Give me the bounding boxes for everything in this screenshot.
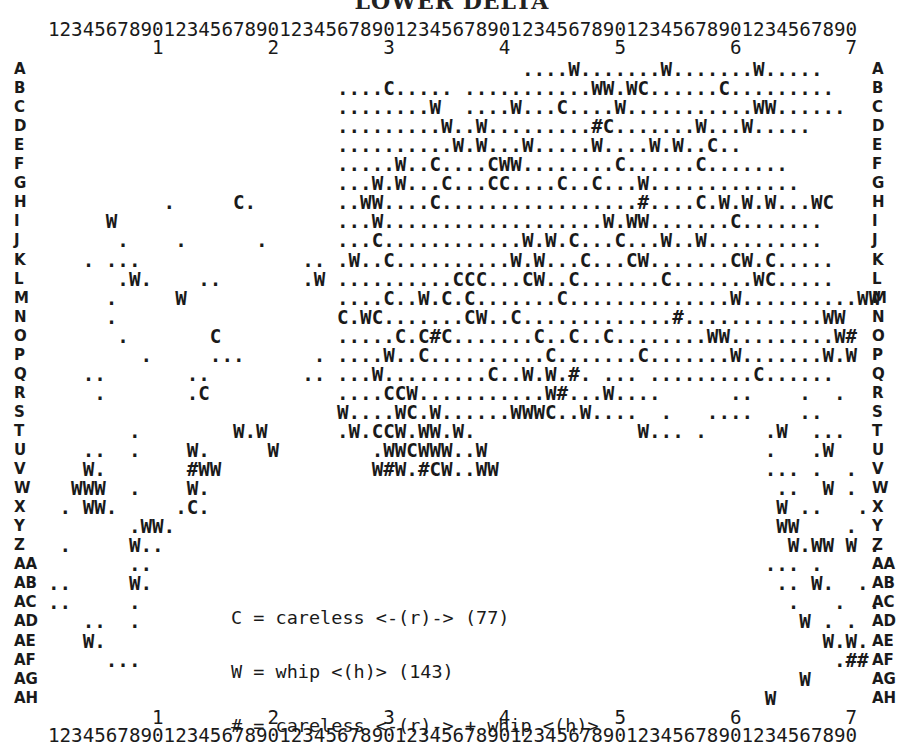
row-label-right: R: [872, 384, 884, 403]
row-label-right: AF: [872, 651, 894, 670]
row-label-left: U: [14, 441, 26, 460]
row-label-left: AC: [14, 593, 37, 612]
row-label-left: K: [14, 251, 26, 270]
row-label-left: P: [14, 346, 25, 365]
row-label-right: AE: [872, 632, 894, 651]
row-label-right: P: [872, 346, 883, 365]
grid-row: .. .. .. ...W.........C..W.W.#. ... ....…: [48, 365, 834, 384]
top-ruler-tens: 1 2 3 4 5 6 7: [48, 38, 857, 58]
row-label-left: Y: [14, 517, 25, 536]
row-label-right: L: [872, 270, 882, 289]
row-label-left: S: [14, 403, 25, 422]
row-label-right: AH: [872, 689, 896, 708]
row-label-left: X: [14, 498, 26, 517]
row-label-right: J: [872, 231, 878, 250]
row-label-right: C: [872, 98, 883, 117]
row-label-left: AF: [14, 651, 36, 670]
row-label-right: H: [872, 193, 885, 212]
row-label-left: V: [14, 460, 26, 479]
row-label-left: O: [14, 327, 27, 346]
grid-row: . . . ...C............W.W.C...C...W..W..…: [48, 231, 822, 250]
grid-row: . W ....C..W.C.C.......C..............W.…: [48, 289, 880, 308]
row-label-left: AA: [14, 555, 37, 574]
row-label-left: M: [14, 289, 29, 308]
row-label-left: Z: [14, 536, 25, 555]
grid-row: . C .....C.C#C.......C..C..C........WW..…: [48, 327, 857, 346]
row-label-right: S: [872, 403, 883, 422]
row-label-left: AD: [14, 612, 38, 631]
row-label-left: E: [14, 136, 24, 155]
row-label-left: AB: [14, 574, 37, 593]
row-label-left: A: [14, 60, 26, 79]
legend: C = careless <-(r)-> (77) W = whip <(h)>…: [231, 573, 599, 750]
row-label-left: R: [14, 384, 26, 403]
row-label-left: D: [14, 117, 26, 136]
row-label-left: W: [14, 479, 31, 498]
row-label-right: Q: [872, 365, 885, 384]
grid-row: . C.WC.......CW..C.............#........…: [48, 308, 846, 327]
row-label-left: C: [14, 98, 25, 117]
figure-title: LOWER DELTA: [0, 0, 904, 14]
row-label-left: Q: [14, 365, 27, 384]
row-label-right: U: [872, 441, 884, 460]
row-label-right: A: [872, 60, 884, 79]
row-label-left: H: [14, 193, 27, 212]
row-label-right: D: [872, 117, 884, 136]
row-label-left: G: [14, 174, 26, 193]
row-label-right: AA: [872, 555, 895, 574]
row-label-right: AD: [872, 612, 896, 631]
legend-both: # = careless <-(r)-> + whip <(h)>: [231, 717, 599, 735]
row-label-right: T: [872, 422, 882, 441]
row-label-right: E: [872, 136, 882, 155]
row-label-right: Z: [872, 536, 883, 555]
grid-row: . ... . ....W..C..........C.......C.....…: [48, 346, 857, 365]
row-label-left: J: [14, 231, 20, 250]
row-label-right: O: [872, 327, 885, 346]
grid-row: . ... .. .W..C..........W.W...C...CW....…: [48, 251, 834, 270]
row-label-right: N: [872, 308, 885, 327]
grid-row: .W. .. .W ..........CCC...CW..C.......C.…: [48, 270, 834, 289]
row-label-right: W: [872, 479, 889, 498]
row-label-right: AC: [872, 593, 895, 612]
row-label-left: AE: [14, 632, 36, 651]
legend-whip: W = whip <(h)> (143): [231, 663, 599, 681]
row-label-left: AG: [14, 670, 38, 689]
row-label-left: I: [14, 212, 20, 231]
row-label-left: B: [14, 79, 25, 98]
row-label-right: AG: [872, 670, 896, 689]
row-label-right: B: [872, 79, 883, 98]
row-label-right: F: [872, 155, 882, 174]
row-label-left: AH: [14, 689, 38, 708]
row-label-left: F: [14, 155, 24, 174]
grid-row: . .C ....CCW...........W#...W.... .. . .: [48, 384, 846, 403]
row-label-right: G: [872, 174, 884, 193]
row-label-left: N: [14, 308, 27, 327]
row-label-left: L: [14, 270, 24, 289]
row-label-right: K: [872, 251, 884, 270]
row-label-right: X: [872, 498, 884, 517]
row-label-right: M: [872, 289, 887, 308]
row-label-left: T: [14, 422, 24, 441]
row-label-right: V: [872, 460, 884, 479]
legend-careless: C = careless <-(r)-> (77): [231, 609, 599, 627]
row-label-right: I: [872, 212, 878, 231]
